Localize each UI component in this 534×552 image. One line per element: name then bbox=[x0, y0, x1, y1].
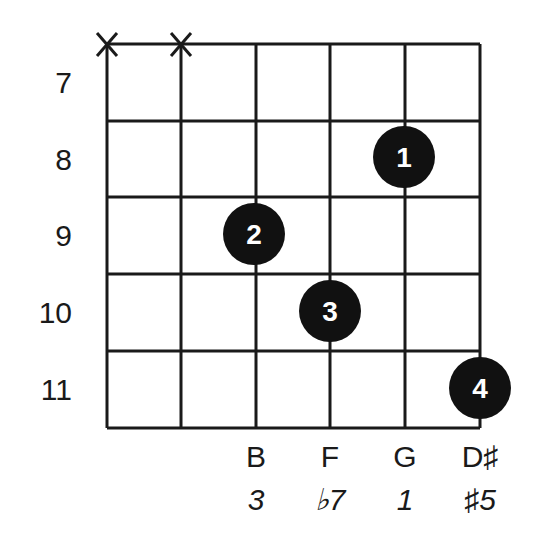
fretboard-grid bbox=[107, 44, 480, 428]
fret-label: 10 bbox=[39, 296, 72, 329]
chord-diagram: 7 8 9 10 11 1 2 3 4 B F G D♯ 3 ♭7 1 ♯5 bbox=[0, 0, 534, 552]
interval-degree: ♭7 bbox=[315, 483, 347, 516]
interval-degree: 3 bbox=[248, 483, 265, 516]
note-name: D♯ bbox=[462, 440, 499, 473]
finger-number: 2 bbox=[246, 219, 262, 250]
fret-label: 8 bbox=[55, 143, 72, 176]
fret-label: 9 bbox=[55, 219, 72, 252]
finger-number: 4 bbox=[472, 373, 488, 404]
fret-label: 11 bbox=[41, 373, 72, 406]
note-name: B bbox=[246, 440, 266, 473]
interval-degree: ♯5 bbox=[464, 483, 496, 516]
note-name: G bbox=[393, 440, 416, 473]
finger-number: 3 bbox=[322, 296, 338, 327]
note-name: F bbox=[321, 440, 339, 473]
finger-number: 1 bbox=[396, 142, 412, 173]
finger-dot: 1 bbox=[373, 126, 435, 188]
fret-label: 7 bbox=[55, 66, 72, 99]
interval-degree: 1 bbox=[397, 483, 414, 516]
finger-dot: 2 bbox=[223, 203, 285, 265]
finger-dot: 3 bbox=[299, 280, 361, 342]
finger-dot: 4 bbox=[449, 357, 511, 419]
